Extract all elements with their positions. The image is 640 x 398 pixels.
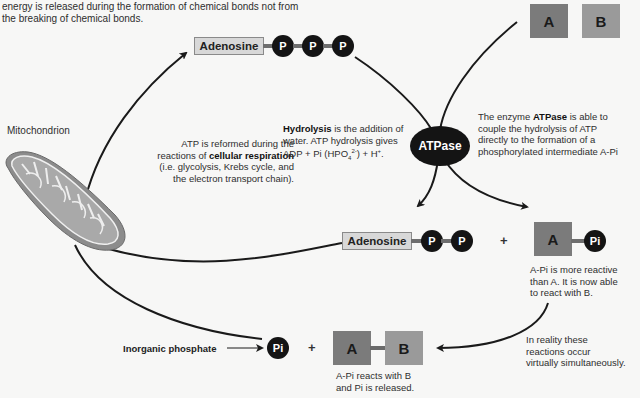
adp-phosphate-2: P [451, 230, 473, 252]
line-atp-to-atpase [355, 57, 432, 130]
product-bond [370, 346, 386, 350]
atpase-note: The enzyme ATPase is able to couple the … [478, 111, 640, 157]
simultaneous-note: In reality these reactions occur virtual… [526, 334, 640, 369]
substrate-b: B [582, 4, 620, 38]
atp-phosphate-1: P [272, 35, 294, 57]
product-b: B [385, 331, 423, 365]
adp-plus: + [500, 233, 508, 248]
products-plus: + [308, 340, 316, 355]
intermediate-note: A-Pi is more reactive than A. It is now … [530, 264, 640, 299]
substrate-a: A [530, 4, 568, 38]
intermediate-pi: Pi [584, 230, 606, 252]
mitochondrion-label: Mitochondrion [7, 125, 70, 137]
arrow-atpase-to-adp [418, 160, 438, 206]
adp-phosphate-1: P [421, 230, 443, 252]
line-adp-to-mito [105, 243, 342, 261]
arrow-atpase-to-api [444, 159, 527, 207]
released-pi: Pi [267, 337, 289, 359]
respiration-note: ATP is reformed during the reactions of … [118, 138, 294, 184]
product-a: A [333, 331, 371, 365]
intermediate-a: A [534, 222, 572, 256]
atpase-enzyme: ATPase [410, 126, 470, 166]
mitochondrion-icon [6, 152, 125, 250]
atp-adenosine: Adenosine [194, 37, 264, 55]
hydrolysis-note: Hydrolysis is the addition of water. ATP… [283, 123, 413, 165]
adp-adenosine: Adenosine [342, 232, 412, 250]
atp-phosphate-2: P [302, 35, 324, 57]
product-note: A-Pi reacts with B and Pi is released. [336, 370, 446, 393]
atp-phosphate-3: P [332, 35, 354, 57]
inorganic-phosphate-label: Inorganic phosphate [123, 343, 216, 355]
